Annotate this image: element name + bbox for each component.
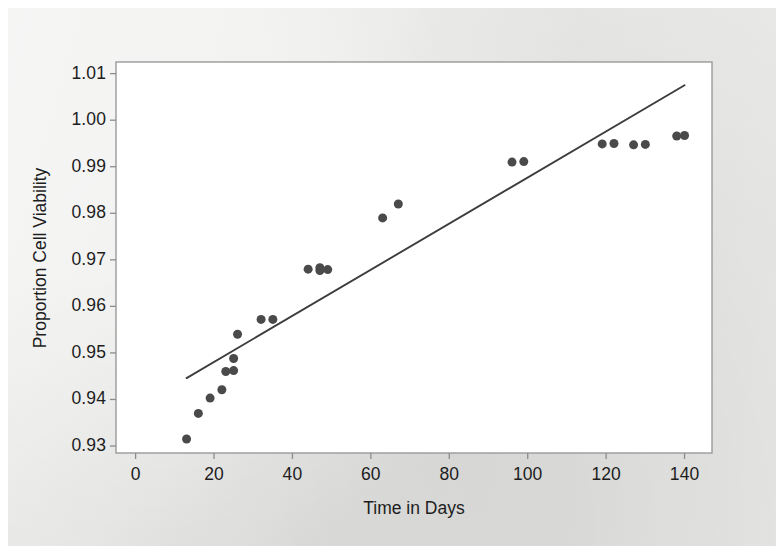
data-point-marker — [680, 131, 689, 140]
data-point-marker — [194, 409, 203, 418]
x-tick-label: 20 — [174, 464, 254, 485]
data-point-marker — [182, 435, 191, 444]
data-point-marker — [229, 354, 238, 363]
y-tick-label: 1.01 — [46, 63, 106, 84]
x-tick-label: 40 — [252, 464, 332, 485]
data-point-marker — [233, 330, 242, 339]
data-point-marker — [378, 213, 387, 222]
data-point-marker — [304, 265, 313, 274]
y-axis-title: Proportion Cell Viability — [30, 153, 51, 363]
y-tick-label: 0.95 — [46, 342, 106, 363]
data-point-marker — [257, 315, 266, 324]
y-tick-label: 0.96 — [46, 295, 106, 316]
figure-container: 0.930.940.950.960.970.980.991.001.01 020… — [0, 0, 784, 554]
data-point-marker — [217, 385, 226, 394]
data-point-marker — [229, 366, 238, 375]
y-tick-label: 1.00 — [46, 109, 106, 130]
y-axis-ticks — [110, 74, 116, 446]
data-point-marker — [323, 265, 332, 274]
x-tick-label: 100 — [488, 464, 568, 485]
data-point-marker — [598, 139, 607, 148]
y-tick-label: 0.97 — [46, 249, 106, 270]
data-point-marker — [508, 158, 517, 167]
x-tick-label: 60 — [331, 464, 411, 485]
x-tick-label: 80 — [409, 464, 489, 485]
data-point-marker — [394, 199, 403, 208]
y-tick-label: 0.99 — [46, 156, 106, 177]
data-point-marker — [206, 394, 215, 403]
x-tick-label: 140 — [645, 464, 725, 485]
data-point-marker — [315, 266, 324, 275]
y-tick-label: 0.94 — [46, 388, 106, 409]
data-point-marker — [641, 140, 650, 149]
data-point-marker — [609, 139, 618, 148]
data-point-marker — [268, 315, 277, 324]
x-axis-ticks — [136, 453, 685, 459]
data-point-marker — [672, 132, 681, 141]
x-tick-label: 0 — [96, 464, 176, 485]
x-axis-title: Time in Days — [339, 498, 489, 519]
data-point-marker — [519, 157, 528, 166]
data-point-marker — [629, 140, 638, 149]
data-point-marker — [221, 367, 230, 376]
y-tick-label: 0.93 — [46, 435, 106, 456]
y-tick-label: 0.98 — [46, 202, 106, 223]
x-tick-label: 120 — [566, 464, 646, 485]
